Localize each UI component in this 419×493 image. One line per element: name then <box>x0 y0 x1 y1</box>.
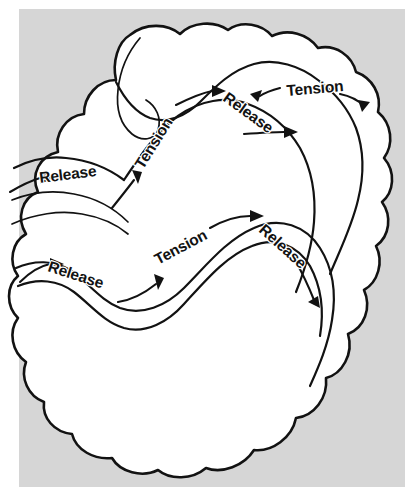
figure-root: Release Tension Release Tension Release … <box>0 0 419 493</box>
tension-release-diagram: Release Tension Release Tension Release … <box>0 0 419 493</box>
